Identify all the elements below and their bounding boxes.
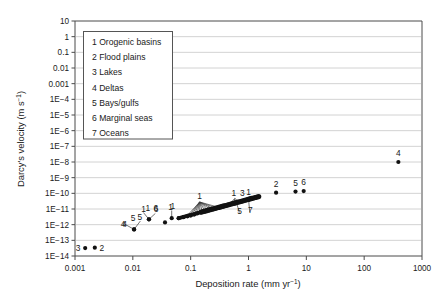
y-tick-label: 10 (60, 17, 70, 26)
legend-item-label: 6 Marginal seas (92, 113, 153, 123)
data-point-label: 1 (197, 191, 202, 201)
data-point (302, 189, 306, 193)
y-tick-label: 1E−10 (45, 189, 69, 198)
y-tick-label: 1 (64, 33, 69, 42)
figure-container: 1010.10.010.0011E−41E−51E−61E−71E−81E−91… (0, 0, 445, 301)
data-point-label: 4 (121, 219, 126, 229)
y-tick-label: 1E−7 (50, 142, 70, 151)
legend-item-label: 4 Deltas (92, 83, 124, 93)
data-point-label: 1 (246, 187, 251, 197)
legend-item-label: 3 Lakes (92, 67, 122, 77)
y-tick-label: 1E−8 (50, 158, 70, 167)
x-tick-label: 1000 (413, 264, 432, 273)
x-tick-label: 0.1 (185, 264, 197, 273)
data-point-label: 7 (248, 205, 253, 215)
data-point (293, 189, 297, 193)
legend-item-label: 2 Flood plains (92, 52, 146, 62)
y-tick-label: 1E−14 (45, 252, 69, 261)
y-tick-label: 1E−11 (46, 205, 70, 214)
x-tick-label: 100 (357, 264, 371, 273)
y-tick-label: 1E−4 (50, 95, 70, 104)
data-point-label: 1 (141, 204, 146, 214)
legend: 1 Orogenic basins2 Flood plains3 Lakes4 … (84, 32, 173, 140)
data-point (396, 160, 400, 164)
data-point (147, 217, 151, 221)
y-tick-label: 0.1 (58, 48, 70, 57)
y-axis-ticks-group: 1010.10.010.0011E−41E−51E−61E−71E−81E−91… (45, 17, 75, 261)
data-point-label: 2 (274, 179, 279, 189)
y-tick-label: 1E−6 (50, 127, 70, 136)
y-tick-label: 0.001 (49, 80, 70, 89)
y-tick-label: 1E−12 (45, 221, 69, 230)
x-tick-label: 0.001 (65, 264, 86, 273)
data-point-label: 5 (237, 206, 242, 216)
data-point-label: 1 (146, 203, 151, 213)
y-tick-label: 1E−5 (50, 111, 70, 120)
data-point-label: 1 (170, 201, 175, 211)
data-point (132, 227, 136, 231)
y-axis-title: Darcy's velocity (m s−1) (15, 91, 26, 187)
data-point (274, 191, 278, 195)
x-tick-label: 1 (246, 264, 251, 273)
legend-item-label: 7 Oceans (92, 128, 129, 138)
y-tick-label: 1E−13 (45, 236, 69, 245)
data-point (93, 246, 97, 250)
data-point-label: 3 (76, 243, 81, 253)
data-point-label: 1 (232, 188, 237, 198)
y-tick-label: 0.01 (53, 64, 69, 73)
legend-item-label: 5 Bays/gulfs (92, 98, 139, 108)
data-point-label: 6 (154, 204, 159, 214)
data-point-label: 5 (131, 213, 136, 223)
data-point-label: 3 (240, 188, 245, 198)
x-tick-label: 0.01 (125, 264, 141, 273)
x-tick-label: 10 (302, 264, 312, 273)
data-point (163, 220, 167, 224)
data-point (256, 194, 261, 199)
data-point (83, 246, 87, 250)
y-tick-label: 1E−9 (50, 174, 70, 183)
deposition-rate-darcy-velocity-scatter-chart: 1010.10.010.0011E−41E−51E−61E−71E−81E−91… (0, 0, 445, 301)
data-point (170, 216, 174, 220)
data-point-label: 5 (293, 178, 298, 188)
data-point-label: 4 (396, 148, 401, 158)
data-point-label: 6 (301, 177, 306, 187)
x-axis-ticks-group: 0.0010.010.11101001000 (65, 256, 432, 273)
x-axis-title: Deposition rate (mm yr−1) (195, 278, 300, 289)
data-point-label: 2 (99, 243, 104, 253)
legend-item-label: 1 Orogenic basins (92, 37, 161, 47)
